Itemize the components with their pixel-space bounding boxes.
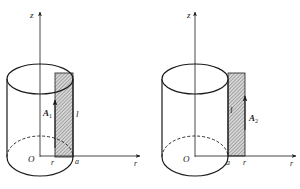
tick-a-left: a — [75, 157, 79, 166]
tick-r-right: r — [243, 158, 247, 167]
r-axis-label-right: r — [290, 159, 294, 168]
length-label-left: l — [76, 109, 79, 119]
cylinder-left-bottom-front — [7, 157, 73, 176]
figure-right: z O a r r A2 l — [162, 10, 296, 176]
diagram-canvas: z O r a r A1 l z O a r r A2 l — [0, 0, 300, 189]
origin-label-left: O — [28, 154, 35, 164]
z-label-right: z — [186, 10, 191, 20]
z-label-left: z — [29, 10, 34, 20]
vector-label-a2: A2 — [248, 113, 258, 124]
figure-left: z O r a r A1 l — [7, 10, 140, 176]
r-axis-label-left: r — [134, 159, 138, 168]
cylinder-right-bottom-front — [162, 157, 228, 176]
origin-label-right: O — [183, 154, 190, 164]
tick-r-left: r — [51, 158, 55, 167]
vector-label-a1: A1 — [42, 108, 52, 119]
tick-a-right: a — [226, 158, 230, 167]
